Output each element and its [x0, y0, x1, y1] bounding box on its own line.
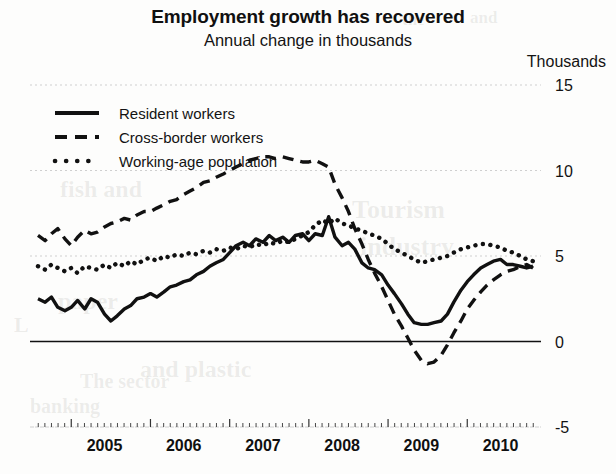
y-tick-label: 15 [555, 77, 573, 94]
y-tick-label: -5 [555, 419, 569, 436]
series-line-solid [38, 217, 533, 325]
data-series-layer [38, 157, 533, 364]
y-tick-label: 5 [555, 248, 564, 265]
gridlines [30, 85, 541, 427]
x-tick-label: 2008 [324, 437, 360, 454]
x-tick-label: 2006 [166, 437, 202, 454]
y-tick-label: 0 [555, 334, 564, 351]
legend-label: Cross-border workers [119, 129, 263, 146]
x-tick-label: 2010 [483, 437, 519, 454]
series-line-dashed [38, 157, 533, 364]
y-axis-tick-labels: 151050-5 [555, 77, 573, 436]
x-axis-ticks [32, 419, 541, 427]
x-axis-tick-labels: 200520062007200820092010 [87, 437, 519, 454]
x-tick-label: 2005 [87, 437, 123, 454]
series-line-dotted [38, 218, 533, 273]
x-tick-label: 2007 [245, 437, 281, 454]
x-tick-label: 2009 [404, 437, 440, 454]
chart-plot-area: 151050-5 200520062007200820092010 Reside… [0, 0, 616, 474]
y-tick-label: 10 [555, 163, 573, 180]
chart-page: theandTourismindustryfish andpaperand pl… [0, 0, 616, 474]
chart-legend: Resident workersCross-border workersWork… [55, 105, 277, 170]
legend-label: Working-age population [119, 153, 277, 170]
legend-label: Resident workers [119, 105, 235, 122]
